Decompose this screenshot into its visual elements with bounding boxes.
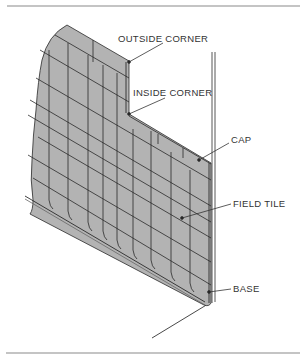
label-inside-corner: INSIDE CORNER bbox=[133, 88, 212, 98]
floor-line bbox=[152, 304, 208, 338]
label-outside-corner: OUTSIDE CORNER bbox=[118, 34, 208, 44]
leader-inside-corner bbox=[129, 98, 165, 114]
label-cap: CAP bbox=[231, 135, 251, 145]
leader-cap bbox=[199, 143, 229, 160]
label-field-tile: FIELD TILE bbox=[233, 199, 285, 209]
label-base: BASE bbox=[233, 284, 260, 294]
tile-wall-diagram bbox=[0, 0, 305, 359]
leader-outside-corner bbox=[129, 43, 163, 62]
tile-panel bbox=[30, 25, 211, 306]
